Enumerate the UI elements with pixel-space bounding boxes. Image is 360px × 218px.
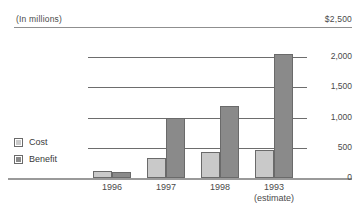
plot-area — [88, 40, 307, 178]
bar-benefit-1998[interactable] — [220, 106, 239, 178]
legend-item-cost[interactable]: Cost — [14, 137, 57, 147]
bar-cost-1998[interactable] — [201, 152, 220, 178]
bar-group-1993 — [255, 54, 293, 178]
axis-baseline — [8, 178, 352, 180]
square-swatch-icon — [14, 155, 23, 164]
axis-tick-label-0: 0 — [347, 172, 352, 182]
bar-cost-1993[interactable] — [255, 150, 274, 178]
legend-label-cost: Cost — [29, 137, 48, 147]
bar-group-1997 — [147, 118, 185, 178]
axis-tick-label-500: 500 — [338, 142, 352, 152]
axis-top-value-label: $2,500 — [325, 14, 352, 24]
category-label-1993: 1993(estimate) — [239, 182, 309, 203]
axis-tick-label-2000: 2,000 — [331, 51, 352, 61]
bar-chart: (In millions) $2,500 CostBenefit 05001,0… — [0, 0, 360, 218]
header-rule — [14, 27, 352, 28]
bar-cost-1997[interactable] — [147, 158, 166, 178]
category-note-1993: (estimate) — [239, 193, 309, 203]
axis-tick-label-1000: 1,000 — [331, 112, 352, 122]
units-label: (In millions) — [16, 14, 62, 24]
bar-group-1996 — [93, 171, 131, 178]
bar-group-1998 — [201, 106, 239, 178]
legend-label-benefit: Benefit — [29, 154, 57, 164]
bar-benefit-1993[interactable] — [274, 54, 293, 178]
square-swatch-icon — [14, 138, 23, 147]
chart-legend: CostBenefit — [14, 137, 57, 171]
bar-benefit-1997[interactable] — [166, 118, 185, 178]
axis-tick-label-1500: 1,500 — [331, 81, 352, 91]
legend-item-benefit[interactable]: Benefit — [14, 154, 57, 164]
bar-cost-1996[interactable] — [93, 171, 112, 178]
